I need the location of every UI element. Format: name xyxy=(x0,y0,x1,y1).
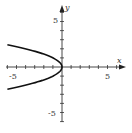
chart: -5 5 5 -5 x y xyxy=(0,0,132,133)
x-tick-label-neg5: -5 xyxy=(9,72,17,81)
y-tick-label-pos5: 5 xyxy=(53,16,58,25)
x-axis-arrow-icon xyxy=(119,65,126,70)
y-axis-arrow-icon xyxy=(60,5,65,12)
y-axis-label: y xyxy=(64,3,70,12)
x-tick-label-pos5: 5 xyxy=(105,72,110,81)
y-tick-label-neg5: -5 xyxy=(48,109,56,118)
x-axis-label: x xyxy=(117,56,122,65)
